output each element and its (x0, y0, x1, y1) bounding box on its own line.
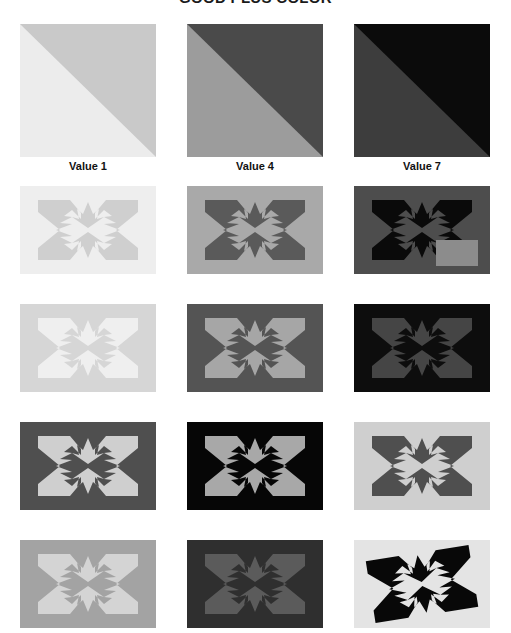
anomaly-patch (436, 240, 478, 266)
pattern-tile-r2c2-motif (187, 304, 323, 392)
swatch-value-7 (354, 24, 490, 157)
poster-canvas: GOOD PLUS COLOR Value 1Value 4Value 7 (0, 0, 511, 633)
pattern-tile-r3c2-motif (187, 422, 323, 510)
pattern-grid (0, 186, 511, 633)
pattern-tile-r4c1-motif (20, 540, 156, 628)
pattern-tile-r3c2 (187, 422, 323, 510)
page-title: GOOD PLUS COLOR (0, 0, 511, 6)
swatch-value-4 (187, 24, 323, 157)
pattern-tile-r3c1-motif (20, 422, 156, 510)
pattern-tile-r4c3-motif (354, 540, 490, 628)
pattern-tile-r3c3-motif (354, 422, 490, 510)
pattern-tile-r1c1 (20, 186, 156, 274)
swatch-value-1 (20, 24, 156, 157)
swatch-row (0, 24, 511, 157)
value-label-2: Value 4 (187, 160, 323, 172)
pattern-tile-r1c2-motif (187, 186, 323, 274)
pattern-tile-r4c2-motif (187, 540, 323, 628)
pattern-tile-r2c1 (20, 304, 156, 392)
pattern-tile-r4c3 (354, 540, 490, 628)
pattern-tile-r4c1 (20, 540, 156, 628)
pattern-tile-r2c3-motif (354, 304, 490, 392)
value-label-row: Value 1Value 4Value 7 (0, 160, 511, 178)
pattern-tile-r2c1-motif (20, 304, 156, 392)
pattern-tile-r2c3 (354, 304, 490, 392)
pattern-tile-r2c2 (187, 304, 323, 392)
pattern-tile-r1c1-motif (20, 186, 156, 274)
pattern-tile-r4c2 (187, 540, 323, 628)
pattern-tile-r3c3 (354, 422, 490, 510)
value-label-1: Value 1 (20, 160, 156, 172)
pattern-tile-r1c3 (354, 186, 490, 274)
pattern-tile-r1c2 (187, 186, 323, 274)
pattern-tile-r3c1 (20, 422, 156, 510)
value-label-3: Value 7 (354, 160, 490, 172)
